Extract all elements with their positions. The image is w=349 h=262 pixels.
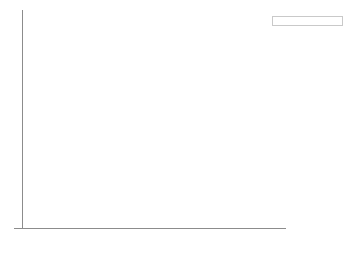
chart-legend: [272, 16, 343, 26]
plot-area: [23, 10, 283, 228]
x-axis-line: [14, 228, 286, 229]
stacked-bar-chart: [0, 0, 349, 262]
